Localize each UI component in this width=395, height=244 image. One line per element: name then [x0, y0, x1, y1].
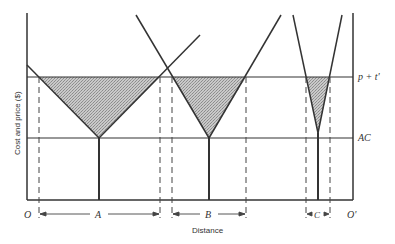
x-axis-label: Distance: [192, 226, 224, 235]
shaded-area-b: [172, 77, 246, 138]
market-a-label: A: [94, 209, 102, 220]
market-area-arrows: [40, 212, 329, 216]
shaded-area-c: [306, 77, 330, 133]
origin-right-label: O': [347, 209, 357, 220]
price-gradient-c-left: [293, 15, 318, 133]
price-gradient-c-right: [318, 15, 342, 133]
y-axis-label: Cost and price ($): [13, 91, 22, 155]
price-line-label: p + t': [357, 71, 381, 82]
origin-left-label: O: [24, 209, 31, 220]
market-area-diagram: O O' A B C p + t' AC Distance Cost and p…: [0, 0, 395, 244]
cost-line-label: AC: [357, 132, 371, 143]
market-b-label: B: [205, 209, 211, 220]
shaded-area-a: [39, 77, 160, 138]
market-c-label: C: [314, 210, 321, 220]
